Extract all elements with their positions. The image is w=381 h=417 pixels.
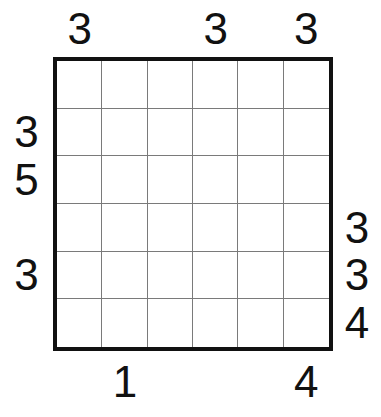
grid-cell-r5c1[interactable]: [102, 299, 147, 347]
grid-cell-r2c4[interactable]: [238, 156, 283, 204]
grid-cell-r4c0[interactable]: [57, 252, 102, 300]
clue-left-5: [0, 299, 53, 347]
clue-right-0: [333, 61, 381, 109]
skyscrapers-puzzle: 3 3 3 3 5 3 3 3 4 1 4: [0, 0, 381, 417]
grid-cell-r1c2[interactable]: [148, 109, 193, 157]
clue-left-0: [0, 61, 53, 109]
clue-right-3: 3: [333, 204, 381, 252]
grid-cell-r3c4[interactable]: [238, 204, 283, 252]
grid-cell-r0c3[interactable]: [193, 61, 238, 109]
grid-cell-r3c1[interactable]: [102, 204, 147, 252]
clue-row-bottom: 1 4: [57, 351, 329, 413]
grid-cell-r4c3[interactable]: [193, 252, 238, 300]
clue-right-5: 4: [333, 299, 381, 347]
grid-cell-r1c4[interactable]: [238, 109, 283, 157]
grid-cell-r3c2[interactable]: [148, 204, 193, 252]
grid-cell-r3c5[interactable]: [284, 204, 329, 252]
clue-left-2: 5: [0, 156, 53, 204]
grid-cell-r5c5[interactable]: [284, 299, 329, 347]
grid-cell-r4c4[interactable]: [238, 252, 283, 300]
clue-top-1: [102, 0, 147, 57]
grid-cell-r1c0[interactable]: [57, 109, 102, 157]
grid-cell-r5c3[interactable]: [193, 299, 238, 347]
grid-cell-r4c1[interactable]: [102, 252, 147, 300]
clue-left-1: 3: [0, 109, 53, 157]
clue-top-4: [238, 0, 283, 57]
grid-cell-r1c1[interactable]: [102, 109, 147, 157]
grid-cell-r4c2[interactable]: [148, 252, 193, 300]
grid-cell-r2c1[interactable]: [102, 156, 147, 204]
grid-cell-r0c2[interactable]: [148, 61, 193, 109]
clue-top-3: 3: [193, 0, 238, 57]
clue-top-0: 3: [57, 0, 102, 57]
clue-top-2: [148, 0, 193, 57]
clue-right-4: 3: [333, 252, 381, 300]
grid-cell-r1c3[interactable]: [193, 109, 238, 157]
grid-cell-r0c1[interactable]: [102, 61, 147, 109]
clue-bottom-3: [193, 351, 238, 413]
grid-cell-r5c0[interactable]: [57, 299, 102, 347]
clue-column-left: 3 5 3: [0, 61, 53, 347]
grid-cell-r2c0[interactable]: [57, 156, 102, 204]
grid-cell-r2c5[interactable]: [284, 156, 329, 204]
grid-cell-r4c5[interactable]: [284, 252, 329, 300]
clue-bottom-4: [238, 351, 283, 413]
grid-cell-r2c2[interactable]: [148, 156, 193, 204]
clue-bottom-0: [57, 351, 102, 413]
clue-right-1: [333, 109, 381, 157]
clue-column-right: 3 3 4: [333, 61, 381, 347]
puzzle-board: [53, 57, 333, 351]
grid-cell-r0c4[interactable]: [238, 61, 283, 109]
clue-right-2: [333, 156, 381, 204]
clue-bottom-2: [148, 351, 193, 413]
clue-left-3: [0, 204, 53, 252]
grid-cell-r5c4[interactable]: [238, 299, 283, 347]
clue-bottom-5: 4: [284, 351, 329, 413]
clue-top-5: 3: [284, 0, 329, 57]
grid-cell-r0c5[interactable]: [284, 61, 329, 109]
clue-bottom-1: 1: [102, 351, 147, 413]
grid-cell-r1c5[interactable]: [284, 109, 329, 157]
clue-row-top: 3 3 3: [57, 0, 329, 57]
grid-cell-r3c3[interactable]: [193, 204, 238, 252]
clue-left-4: 3: [0, 252, 53, 300]
grid-cell-r5c2[interactable]: [148, 299, 193, 347]
grid-cell-r2c3[interactable]: [193, 156, 238, 204]
grid-cell-r0c0[interactable]: [57, 61, 102, 109]
grid-cell-r3c0[interactable]: [57, 204, 102, 252]
